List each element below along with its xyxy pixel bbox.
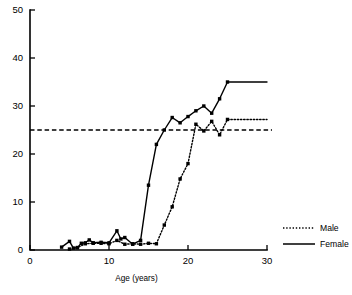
data-point-male-6: [115, 239, 118, 242]
chart-legend: MaleFemale: [283, 223, 349, 249]
data-point-male-8: [131, 242, 134, 245]
y-tick-label-20: 20: [12, 148, 23, 159]
data-point-male-20: [226, 118, 229, 121]
data-point-female-0: [60, 245, 63, 248]
data-point-female-10: [115, 229, 118, 232]
data-point-female-25: [226, 80, 229, 83]
x-tick-label-10: 10: [104, 255, 115, 266]
data-point-male-14: [178, 177, 181, 180]
data-point-female-20: [186, 115, 189, 118]
legend-label-female: Female: [320, 239, 349, 249]
x-tick-label-0: 0: [27, 255, 32, 266]
data-point-male-15: [186, 162, 189, 165]
data-point-male-9: [139, 243, 142, 246]
x-axis-title: Age (years): [115, 274, 158, 283]
legend-label-male: Male: [320, 223, 339, 233]
data-point-male-17: [202, 129, 205, 132]
data-point-female-6: [88, 238, 91, 241]
data-point-male-12: [163, 223, 166, 226]
data-point-male-7: [123, 243, 126, 246]
data-point-female-21: [194, 109, 197, 112]
data-point-female-17: [163, 128, 166, 131]
data-point-female-16: [155, 143, 158, 146]
data-point-female-23: [210, 112, 213, 115]
data-point-female-19: [178, 121, 181, 124]
data-point-female-15: [147, 184, 150, 187]
x-tick-label-20: 20: [183, 255, 194, 266]
line-chart-svg: 010203040500102030Age (years) MaleFemale: [0, 0, 352, 295]
data-point-male-18: [210, 120, 213, 123]
data-point-male-13: [171, 205, 174, 208]
data-point-female-11: [119, 237, 122, 240]
data-point-male-11: [155, 242, 158, 245]
data-point-male-2: [84, 242, 87, 245]
data-point-male-16: [194, 123, 197, 126]
y-tick-label-50: 50: [12, 4, 23, 15]
data-point-female-18: [171, 116, 174, 119]
data-point-male-19: [218, 133, 221, 136]
x-tick-label-30: 30: [262, 255, 273, 266]
data-point-male-4: [99, 242, 102, 245]
data-point-female-1: [68, 240, 71, 243]
series-line-female: [62, 82, 267, 248]
chart-container: 010203040500102030Age (years) MaleFemale: [0, 0, 352, 295]
data-point-male-10: [147, 242, 150, 245]
axis-labels-group: 010203040500102030Age (years): [12, 4, 272, 283]
y-tick-label-10: 10: [12, 196, 23, 207]
data-series-group: [60, 80, 267, 250]
data-point-male-3: [92, 242, 95, 245]
data-point-female-12: [123, 236, 126, 239]
data-point-female-22: [202, 104, 205, 107]
y-tick-label-30: 30: [12, 100, 23, 111]
series-line-male: [70, 119, 268, 249]
data-point-female-24: [218, 97, 221, 100]
y-tick-label-0: 0: [18, 244, 23, 255]
data-point-male-0: [68, 247, 71, 250]
y-tick-label-40: 40: [12, 52, 23, 63]
data-point-male-5: [107, 242, 110, 245]
data-point-female-14: [139, 239, 142, 242]
data-point-male-1: [76, 246, 79, 249]
